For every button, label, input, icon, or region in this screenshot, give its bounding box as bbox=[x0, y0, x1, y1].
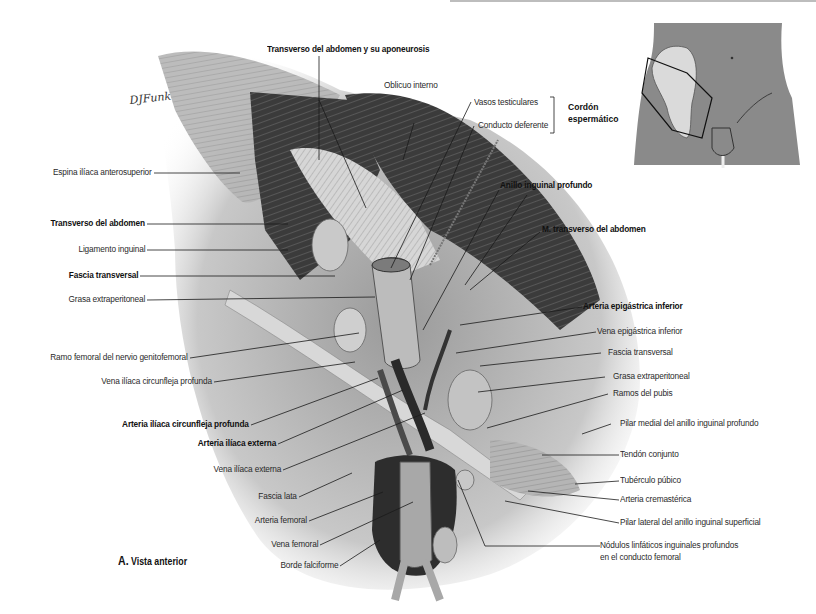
label-pilar-medial-anillo-profundo: Pilar medial del anillo inguinal profund… bbox=[620, 418, 758, 429]
label-tuberculo-pubico: Tubérculo púbico bbox=[620, 475, 681, 486]
label-cordon-espermatico: Cordón espermático bbox=[568, 101, 618, 125]
label-transverso-abdomen: Transverso del abdomen bbox=[51, 218, 145, 229]
label-arteria-iliaca-externa: Arteria ilíaca externa bbox=[198, 438, 276, 449]
label-transverso-aponeurosis: Transverso del abdomen y su aponeurosis bbox=[267, 44, 429, 55]
label-conducto-deferente: Conducto deferente bbox=[478, 120, 548, 131]
label-pilar-lateral-anillo-superficial: Pilar lateral del anillo inguinal superf… bbox=[620, 517, 761, 528]
label-espina-iliaca: Espina ilíaca anterosuperior bbox=[53, 167, 152, 178]
label-oblicuo-interno: Oblicuo interno bbox=[384, 80, 438, 91]
label-borde-falciforme: Borde falciforme bbox=[280, 560, 338, 571]
label-arteria-epigastrica-inferior: Arteria epigástrica inferior bbox=[583, 301, 683, 312]
label-tendon-conjunto: Tendón conjunto bbox=[620, 449, 679, 460]
caption-text: Vista anterior bbox=[131, 556, 187, 567]
label-ligamento-inguinal: Ligamento inguinal bbox=[78, 244, 145, 255]
caption-letter: A. bbox=[118, 554, 129, 568]
label-vasos-testiculares: Vasos testiculares bbox=[474, 97, 538, 108]
label-vena-femoral: Vena femoral bbox=[271, 539, 318, 550]
label-nodulos-linfaticos-1: Nódulos linfáticos inguinales profundos bbox=[600, 540, 738, 551]
label-arteria-iliaca-circunfleja: Arteria ilíaca circunfleja profunda bbox=[122, 419, 249, 430]
label-fascia-transversal-right: Fascia transversal bbox=[608, 347, 673, 358]
label-arteria-femoral: Arteria femoral bbox=[255, 515, 307, 526]
label-vena-iliaca-externa: Vena ilíaca externa bbox=[213, 464, 281, 475]
label-fascia-lata: Fascia lata bbox=[258, 491, 297, 502]
figure-caption: A. Vista anterior bbox=[118, 554, 187, 568]
label-vena-iliaca-circunfleja: Vena ilíaca circunfleja profunda bbox=[101, 376, 212, 387]
label-ramo-femoral-genitofemoral: Ramo femoral del nervio genitofemoral bbox=[51, 352, 188, 363]
label-m-transverso-abdomen: M. transverso del abdomen bbox=[542, 224, 646, 235]
label-nodulos-linfaticos-2: en el conducto femoral bbox=[600, 552, 681, 563]
label-arteria-cremasterica: Arteria cremastérica bbox=[620, 494, 691, 505]
label-grasa-extraperitoneal-left: Grasa extraperitoneal bbox=[68, 294, 145, 305]
label-fascia-transversal-left: Fascia transversal bbox=[68, 270, 138, 281]
orientation-inset-figure bbox=[632, 18, 807, 168]
cordon-line-2: espermático bbox=[568, 113, 618, 125]
label-vena-epigastrica-inferior: Vena epigástrica inferior bbox=[597, 326, 682, 337]
label-ramos-del-pubis: Ramos del pubis bbox=[613, 388, 673, 399]
label-grasa-extraperitoneal-right: Grasa extraperitoneal bbox=[613, 371, 690, 382]
label-anillo-inguinal-profundo: Anillo inguinal profundo bbox=[500, 180, 592, 191]
cordon-line-1: Cordón bbox=[568, 101, 618, 113]
